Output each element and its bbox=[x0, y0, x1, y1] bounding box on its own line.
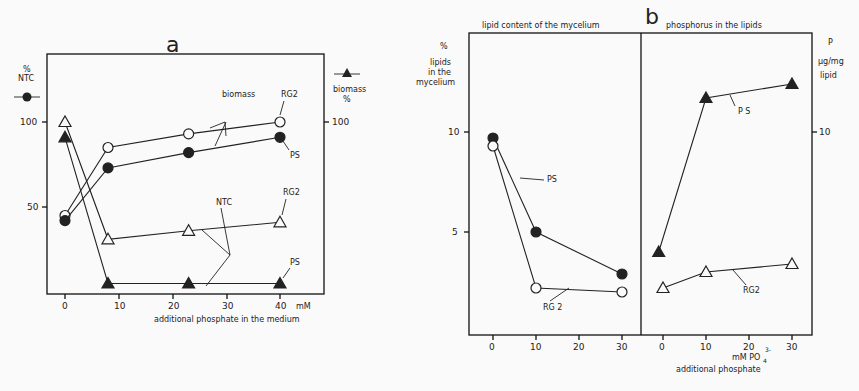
open-circle-marker-icon bbox=[275, 117, 285, 127]
open-circle-marker-icon bbox=[184, 129, 194, 139]
svg-text:PS: PS bbox=[290, 258, 300, 267]
series-ps bbox=[653, 78, 798, 257]
filled-triangle-marker-icon bbox=[183, 278, 195, 289]
svg-text:0: 0 bbox=[659, 342, 665, 352]
series-ps-biomass bbox=[59, 131, 286, 288]
svg-text:RG2: RG2 bbox=[283, 188, 300, 197]
open-triangle-marker-icon bbox=[786, 258, 798, 269]
svg-text:mycelium: mycelium bbox=[416, 78, 455, 87]
filled-triangle-marker-icon bbox=[274, 278, 286, 289]
panel-b: b lipid content of the mycelium phosphor… bbox=[416, 4, 844, 374]
a-x-axis-label: additional phosphate in the medium bbox=[154, 315, 300, 324]
svg-text:PS: PS bbox=[290, 151, 300, 160]
series-ps-ntc bbox=[60, 132, 285, 225]
series-rg2 bbox=[657, 258, 798, 293]
svg-text:RG2: RG2 bbox=[281, 90, 298, 99]
panel-b-label: b bbox=[645, 4, 659, 29]
svg-text:0: 0 bbox=[489, 342, 495, 352]
a-x-unit: mM bbox=[296, 302, 311, 311]
svg-text:20: 20 bbox=[168, 301, 180, 311]
filled-circle-marker-icon bbox=[103, 163, 113, 173]
a-right-unit: % bbox=[343, 95, 351, 104]
a-left-unit: % bbox=[23, 65, 31, 74]
series-ps bbox=[488, 133, 627, 279]
b-left-title: lipid content of the mycelium bbox=[482, 21, 600, 30]
panel-b-series bbox=[488, 78, 798, 297]
svg-text:RG 2: RG 2 bbox=[543, 303, 562, 312]
svg-text:30: 30 bbox=[222, 301, 234, 311]
svg-text:P S: P S bbox=[738, 107, 750, 116]
open-circle-marker-icon bbox=[531, 283, 541, 293]
b-right-title: phosphorus in the lipids bbox=[666, 21, 762, 30]
open-triangle-marker-icon bbox=[59, 116, 71, 127]
svg-text:20: 20 bbox=[743, 342, 755, 352]
svg-text:5: 5 bbox=[452, 227, 458, 237]
a-x-ticks: 0 10 20 30 40 mM bbox=[62, 294, 311, 311]
svg-text:P: P bbox=[828, 38, 833, 47]
filled-triangle-marker-icon bbox=[786, 78, 798, 89]
open-triangle-marker-icon bbox=[657, 282, 669, 293]
b-left-unit: % bbox=[440, 42, 448, 51]
filled-circle-marker-icon bbox=[531, 227, 541, 237]
filled-circle-marker-icon bbox=[184, 148, 194, 158]
a-right-name: biomass bbox=[333, 85, 366, 94]
open-triangle-marker-icon bbox=[274, 216, 286, 227]
a-tick-100: 100 bbox=[20, 117, 37, 127]
filled-circle-marker-icon bbox=[275, 132, 285, 142]
filled-circle-legend-icon bbox=[14, 93, 40, 102]
svg-text:µg/mg: µg/mg bbox=[818, 57, 844, 66]
open-circle-marker-icon bbox=[103, 143, 113, 153]
svg-text:10: 10 bbox=[114, 301, 126, 311]
a-rtick-100: 100 bbox=[332, 117, 349, 127]
series-rg2-biomass bbox=[59, 116, 286, 244]
series-rg-2 bbox=[488, 141, 627, 297]
svg-text:4: 4 bbox=[763, 357, 767, 364]
filled-circle-marker-icon bbox=[617, 269, 627, 279]
svg-text:10: 10 bbox=[700, 342, 712, 352]
svg-text:10: 10 bbox=[530, 342, 542, 352]
svg-text:30: 30 bbox=[786, 342, 798, 352]
svg-text:lipids: lipids bbox=[430, 58, 451, 67]
svg-text:lipid: lipid bbox=[820, 71, 837, 80]
svg-text:20: 20 bbox=[573, 342, 585, 352]
b-x-axis-label: mM PO 4 3- additional phosphate bbox=[676, 346, 771, 374]
a-left-name: NTC bbox=[18, 74, 34, 83]
svg-text:0: 0 bbox=[62, 301, 68, 311]
svg-text:NTC: NTC bbox=[216, 198, 232, 207]
filled-circle-marker-icon bbox=[60, 216, 70, 226]
filled-triangle-legend-icon bbox=[334, 68, 360, 77]
filled-triangle-marker-icon bbox=[653, 246, 665, 257]
svg-text:30: 30 bbox=[616, 342, 628, 352]
svg-text:PS: PS bbox=[547, 175, 557, 184]
panel-a: a % NTC 100 50 biomass % 100 0 10 bbox=[14, 32, 366, 324]
b-x-ticks: 0 10 20 30 0 10 20 30 bbox=[489, 335, 798, 352]
svg-text:biomass: biomass bbox=[222, 90, 255, 99]
open-circle-marker-icon bbox=[488, 141, 498, 151]
panel-a-series bbox=[59, 116, 286, 288]
a-tick-50: 50 bbox=[27, 202, 39, 212]
svg-text:in the: in the bbox=[428, 68, 451, 77]
svg-text:10: 10 bbox=[448, 127, 460, 137]
svg-text:mM PO: mM PO bbox=[732, 353, 760, 362]
svg-text:40: 40 bbox=[275, 301, 287, 311]
panel-a-annotations: biomass RG2 PS NTC RG2 PS bbox=[202, 90, 300, 286]
svg-text:additional phosphate: additional phosphate bbox=[676, 365, 761, 374]
svg-text:10: 10 bbox=[819, 127, 831, 137]
filled-triangle-marker-icon bbox=[102, 278, 114, 289]
series-rg2-ntc bbox=[60, 117, 285, 221]
svg-text:RG2: RG2 bbox=[743, 286, 760, 295]
panel-b-annotations: PS RG 2 P S RG2 bbox=[520, 95, 760, 312]
svg-text:3-: 3- bbox=[765, 346, 771, 353]
open-circle-marker-icon bbox=[617, 287, 627, 297]
panel-a-label: a bbox=[166, 32, 179, 57]
figure-canvas: a % NTC 100 50 biomass % 100 0 10 bbox=[0, 0, 859, 391]
